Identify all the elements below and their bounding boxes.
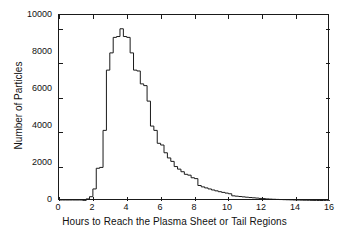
y-tick-label-10000: 10000 [12, 10, 52, 19]
y-tick-label-0: 0 [12, 195, 52, 204]
plot-area [58, 14, 329, 200]
x-tick-label-10: 10 [217, 203, 237, 212]
x-tick-label-12: 12 [251, 203, 271, 212]
x-tick-label-14: 14 [285, 203, 305, 212]
x-tick-label-2: 2 [82, 203, 102, 212]
x-tick-label-0: 0 [48, 203, 68, 212]
x-tick-label-8: 8 [184, 203, 204, 212]
x-axis-title: Hours to Reach the Plasma Sheet or Tail … [0, 216, 349, 227]
axis-ticks [59, 15, 330, 201]
y-axis-title: Number of Particles [13, 36, 24, 176]
x-tick-label-16: 16 [319, 203, 339, 212]
x-tick-label-6: 6 [150, 203, 170, 212]
histogram-figure: 0 2000 4000 6000 8000 10000 0 2 4 6 8 10… [0, 0, 349, 236]
histogram-svg [59, 15, 330, 201]
histogram-outline [59, 29, 330, 201]
x-tick-label-4: 4 [116, 203, 136, 212]
